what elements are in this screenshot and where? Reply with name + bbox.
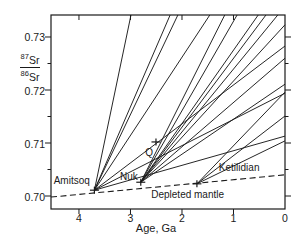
y-axis-label: 87Sr 86Sr bbox=[14, 51, 46, 82]
evolution-line bbox=[141, 15, 258, 182]
y-tick-label: 0.70 bbox=[15, 191, 45, 203]
y-tick-label: 0.72 bbox=[15, 85, 45, 97]
y-tick-label: 0.71 bbox=[15, 138, 45, 150]
evolution-line bbox=[94, 15, 131, 190]
ketilidian-label: Ketilidian bbox=[219, 162, 260, 173]
evolution-line bbox=[94, 15, 170, 190]
x-tick-label: 0 bbox=[274, 212, 296, 224]
isotope-evolution-plot bbox=[0, 0, 302, 247]
x-tick-label: 3 bbox=[119, 212, 141, 224]
x-axis-label: Age, Ga bbox=[106, 222, 206, 234]
y-tick-label: 0.73 bbox=[15, 31, 45, 43]
x-tick-label: 2 bbox=[171, 212, 193, 224]
evolution-line bbox=[94, 15, 209, 190]
x-tick-label: 1 bbox=[222, 212, 244, 224]
evolution-line bbox=[141, 58, 285, 182]
q-label: Q bbox=[145, 147, 153, 158]
y-axis-label-numerator: 87Sr bbox=[20, 51, 41, 68]
x-tick-label: 4 bbox=[68, 212, 90, 224]
evolution-line bbox=[197, 116, 285, 184]
amitsoq-label: Amitsoq bbox=[54, 175, 90, 186]
y-axis-label-denominator: 86Sr bbox=[14, 68, 46, 83]
sr-isotope-evolution-figure: 87Sr 86Sr Age, Ga 432100.700.710.720.73D… bbox=[0, 0, 302, 247]
depleted-mantle-label: Depleted mantle bbox=[151, 188, 224, 199]
evolution-line bbox=[94, 15, 177, 190]
nuk-label: Nuk bbox=[120, 171, 138, 182]
